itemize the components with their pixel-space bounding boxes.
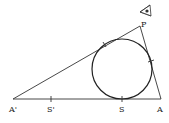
label-s: S: [119, 105, 124, 114]
incircle: [92, 39, 152, 99]
side-p-a: [140, 26, 161, 99]
label-a-prime: A': [8, 105, 17, 114]
eye-icon: [140, 5, 151, 16]
label-s-prime: S': [47, 105, 55, 114]
incircle-diagram: A' S' S A P: [0, 0, 169, 123]
label-p: P: [141, 20, 147, 29]
side-a-prime-p: [13, 26, 140, 99]
label-a: A: [156, 105, 163, 114]
